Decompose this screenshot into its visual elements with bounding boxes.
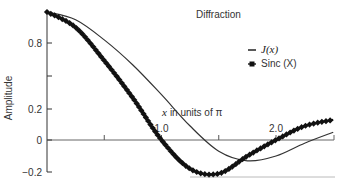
- x-tick-label: 2.0: [269, 123, 283, 134]
- diffraction-chart: Diffraction Amplitude 0.80.20−0.2 1.02.0…: [0, 0, 344, 184]
- y-tick-label: 0: [36, 135, 42, 146]
- legend-sinc-label: Sinc (X): [261, 58, 297, 69]
- x-ticks: 1.02.0: [104, 123, 283, 140]
- legend-sinc-swatch: [250, 62, 255, 67]
- legend: J(x) Sinc (X): [248, 43, 297, 69]
- y-tick-label: −0.2: [22, 167, 42, 178]
- y-tick-label: 0.8: [28, 38, 42, 49]
- x-axis-label: xin units of π: [161, 106, 222, 118]
- y-axis-label: Amplitude: [3, 75, 14, 120]
- series-jx-line: [47, 12, 333, 161]
- series-sinc-markers: [44, 9, 333, 178]
- chart-title: Diffraction: [196, 9, 241, 20]
- y-tick-label: 0.2: [28, 104, 42, 115]
- y-ticks: 0.80.20−0.2: [22, 38, 52, 178]
- legend-jx-label: J(x): [261, 43, 278, 56]
